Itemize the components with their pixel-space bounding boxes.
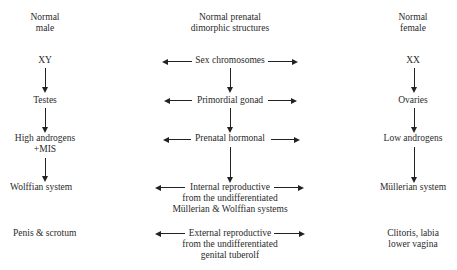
down-arrow-icon bbox=[45, 108, 46, 129]
down-arrow-icon bbox=[414, 108, 415, 129]
down-arrow-icon bbox=[230, 108, 231, 129]
male-high-androgens-line-2: +MIS bbox=[15, 144, 75, 155]
header-male-line-1: Normal bbox=[30, 12, 59, 23]
down-arrow-icon bbox=[230, 68, 231, 89]
female-mullerian-system: Müllerian system bbox=[380, 182, 446, 193]
center-sex-chromosomes: Sex chromosomes bbox=[195, 55, 264, 66]
header-female-line-1: Normal bbox=[398, 12, 427, 23]
down-arrow-icon bbox=[45, 158, 46, 178]
header-female-line-2: female bbox=[398, 23, 427, 34]
male-high-androgens-line-1: High androgens bbox=[15, 133, 75, 144]
female-clitoris-labia: Clitoris, labia lower vagina bbox=[387, 228, 439, 250]
right-arrow-icon bbox=[268, 61, 293, 62]
external-line-3: genital tuberolf bbox=[182, 250, 277, 261]
left-arrow-icon bbox=[167, 61, 192, 62]
down-arrow-icon bbox=[45, 68, 46, 89]
left-arrow-icon bbox=[160, 187, 185, 188]
center-primordial-gonad: Primordial gonad bbox=[197, 95, 263, 106]
female-ovaries: Ovaries bbox=[398, 95, 428, 106]
center-internal-reproductive: Internal reproductive from the undiffere… bbox=[172, 182, 287, 215]
center-external-reproductive: External reproductive from the undiffere… bbox=[182, 228, 277, 261]
header-male-line-2: male bbox=[30, 23, 59, 34]
external-line-1: External reproductive bbox=[182, 228, 277, 239]
right-arrow-icon bbox=[274, 233, 300, 234]
male-testes: Testes bbox=[33, 95, 57, 106]
male-wolffian-system: Wolffian system bbox=[10, 182, 72, 193]
left-arrow-icon bbox=[169, 100, 192, 101]
down-arrow-icon bbox=[414, 68, 415, 89]
left-arrow-icon bbox=[168, 139, 191, 140]
female-xx: XX bbox=[406, 55, 420, 66]
header-normal-female: Normal female bbox=[398, 12, 427, 34]
header-center-line-1: Normal prenatal bbox=[191, 12, 269, 23]
female-external-line-1: Clitoris, labia bbox=[387, 228, 439, 239]
external-line-2: from the undifferentiated bbox=[182, 239, 277, 250]
male-high-androgens: High androgens +MIS bbox=[15, 133, 75, 155]
female-external-line-2: lower vagina bbox=[387, 239, 439, 250]
down-arrow-icon bbox=[230, 147, 231, 179]
header-normal-male: Normal male bbox=[30, 12, 59, 34]
down-arrow-icon bbox=[414, 147, 415, 179]
internal-line-3: Müllerian & Wolffian systems bbox=[172, 204, 287, 215]
internal-line-2: from the undifferentiated bbox=[172, 193, 287, 204]
male-xy: XY bbox=[38, 55, 52, 66]
right-arrow-icon bbox=[274, 187, 299, 188]
female-low-androgens: Low androgens bbox=[384, 133, 443, 144]
center-prenatal-hormonal: Prenatal hormonal bbox=[195, 133, 265, 144]
header-center-line-2: dimorphic structures bbox=[191, 23, 269, 34]
right-arrow-icon bbox=[268, 100, 292, 101]
left-arrow-icon bbox=[160, 233, 185, 234]
header-prenatal-structures: Normal prenatal dimorphic structures bbox=[191, 12, 269, 34]
internal-line-1: Internal reproductive bbox=[172, 182, 287, 193]
male-penis-scrotum: Penis & scrotum bbox=[13, 228, 76, 239]
right-arrow-icon bbox=[271, 139, 295, 140]
